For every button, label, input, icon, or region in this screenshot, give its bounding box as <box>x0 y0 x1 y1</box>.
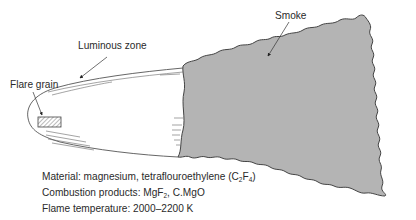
flare-grain-leader <box>33 92 42 115</box>
flare-grain-block <box>38 117 61 127</box>
luminous-zone-label: Luminous zone <box>78 39 147 51</box>
flare-grain-label: Flare grain <box>10 78 58 90</box>
flame-temperature-line: Flame temperature: 2000–2200 K <box>42 200 256 216</box>
luminous-streaks-bottom <box>46 118 183 150</box>
material-line: Material: magnesium, tetraflouroethylene… <box>42 168 256 184</box>
luminous-zone-leader <box>80 57 107 78</box>
flare-properties: Material: magnesium, tetraflouroethylene… <box>42 168 274 216</box>
combustion-products-line: Combustion products: MgF2, C.MgO <box>42 184 256 200</box>
smoke-label: Smoke <box>275 9 307 21</box>
